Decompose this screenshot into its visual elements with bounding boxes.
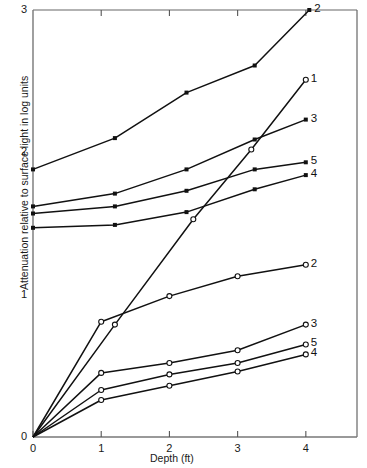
series-line [33, 175, 306, 228]
data-point [99, 370, 104, 375]
series-line [33, 265, 306, 437]
x-tick-label-3: 3 [218, 442, 258, 454]
data-point [249, 147, 254, 152]
series-end-label-lower-5: 5 [311, 154, 317, 166]
series-end-label-lower-4: 4 [311, 167, 317, 179]
x-tick-label-0: 0 [13, 442, 53, 454]
series-lower-4 [31, 173, 308, 230]
y-axis-title: Attenuation relative to surface light in… [18, 150, 30, 290]
data-point [99, 319, 104, 324]
data-point [99, 398, 104, 403]
data-point [112, 322, 117, 327]
chart-canvas [0, 0, 367, 468]
data-point [185, 210, 189, 214]
series-lower-2 [31, 8, 311, 171]
x-tick-label-2: 2 [149, 442, 189, 454]
series-end-label-upper-1: 1 [311, 72, 317, 84]
data-point [253, 167, 257, 171]
data-point [191, 217, 196, 222]
series-lower-5 [31, 160, 308, 215]
series-end-label-lower-3: 3 [311, 112, 317, 124]
data-point [185, 91, 189, 95]
data-point [185, 167, 189, 171]
data-point [167, 383, 172, 388]
data-point [253, 64, 257, 68]
data-point [31, 226, 35, 230]
data-point [303, 322, 308, 327]
series-line [33, 10, 309, 169]
y-tick-label-0: 0 [0, 430, 27, 442]
data-point [185, 189, 189, 193]
data-point [113, 223, 117, 227]
y-tick-label-2: 2 [0, 145, 27, 157]
data-point [303, 77, 308, 82]
data-point [303, 262, 308, 267]
data-point [167, 372, 172, 377]
data-point [235, 274, 240, 279]
data-point [167, 361, 172, 366]
series-line [33, 345, 306, 438]
series-upper-5 [33, 342, 308, 437]
data-point [113, 136, 117, 140]
x-tick-label-4: 4 [286, 442, 326, 454]
series-upper-2 [33, 262, 308, 437]
data-point [235, 348, 240, 353]
data-point [304, 118, 308, 122]
series-end-label-upper-3: 3 [311, 317, 317, 329]
data-point [304, 160, 308, 164]
data-point [31, 204, 35, 208]
data-series-layer [31, 8, 311, 437]
data-point [253, 187, 257, 191]
data-point [303, 342, 308, 347]
series-end-label-upper-5: 5 [311, 336, 317, 348]
data-point [235, 369, 240, 374]
data-point [31, 167, 35, 171]
data-point [113, 192, 117, 196]
series-end-label-upper-2: 2 [311, 257, 317, 269]
data-point [99, 388, 104, 393]
data-point [307, 8, 311, 12]
y-tick-label-1: 1 [0, 288, 27, 300]
data-point [304, 173, 308, 177]
x-tick-label-1: 1 [81, 442, 121, 454]
data-point [253, 138, 257, 142]
data-point [31, 212, 35, 216]
y-tick-label-3: 3 [0, 3, 27, 15]
figure: Attenuation relative to surface light in… [0, 0, 367, 468]
plot-frame [33, 10, 357, 437]
series-line [33, 162, 306, 213]
data-point [113, 204, 117, 208]
data-point [303, 352, 308, 357]
data-point [235, 361, 240, 366]
series-end-label-lower-2: 2 [314, 2, 320, 14]
data-point [167, 294, 172, 299]
